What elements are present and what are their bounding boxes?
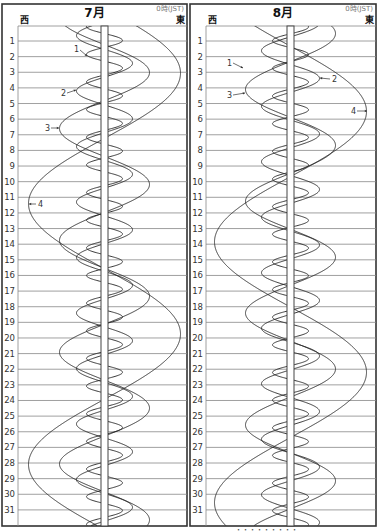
day-label: 15 <box>4 255 15 265</box>
day-label: 15 <box>192 255 203 265</box>
day-label: 25 <box>4 411 15 421</box>
day-label: 19 <box>192 317 203 327</box>
day-label: 22 <box>192 364 203 374</box>
jupiter-band <box>287 26 294 526</box>
day-label: 26 <box>4 427 15 437</box>
month-title: 7月 <box>84 6 104 20</box>
timezone-label: 0時(JST) <box>345 5 373 13</box>
july-panel: 7月0時(JST)西東12345678910111213141516171819… <box>2 4 187 526</box>
moon-3-label: 3 <box>45 124 50 133</box>
moon-4-label: 4 <box>38 200 43 209</box>
day-label: 23 <box>192 380 203 390</box>
day-label: 30 <box>192 489 203 499</box>
day-label: 5 <box>10 99 15 109</box>
day-label: 4 <box>10 83 15 93</box>
east-label: 東 <box>176 14 185 25</box>
arrowhead-icon <box>320 77 322 79</box>
day-label: 2 <box>10 52 15 62</box>
arrowhead-icon <box>29 203 31 205</box>
day-label: 6 <box>198 114 203 124</box>
cropped-caption: ・・・・・・・・・ <box>235 524 298 532</box>
day-label: 30 <box>4 489 15 499</box>
day-label: 18 <box>192 302 203 312</box>
day-label: 6 <box>10 114 15 124</box>
day-label: 10 <box>4 177 15 187</box>
day-label: 1 <box>198 36 203 46</box>
day-label: 31 <box>192 505 203 515</box>
day-label: 28 <box>4 458 15 468</box>
day-label: 14 <box>4 239 15 249</box>
day-label: 27 <box>4 442 15 452</box>
day-label: 2 <box>198 52 203 62</box>
day-label: 1 <box>10 36 15 46</box>
august-panel: 8月0時(JST)西東12345678910111213141516171819… <box>190 4 376 526</box>
day-label: 22 <box>4 364 15 374</box>
day-label: 20 <box>192 333 203 343</box>
day-label: 13 <box>4 224 15 234</box>
day-label: 16 <box>4 270 15 280</box>
west-label: 西 <box>20 15 29 25</box>
day-label: 16 <box>192 270 203 280</box>
day-label: 8 <box>198 145 203 155</box>
moon-1-label: 1 <box>74 45 79 54</box>
day-label: 29 <box>4 474 15 484</box>
day-label: 18 <box>4 302 15 312</box>
day-label: 10 <box>192 177 203 187</box>
day-label: 19 <box>4 317 15 327</box>
day-label: 26 <box>192 427 203 437</box>
east-label: 東 <box>365 14 374 25</box>
day-label: 17 <box>4 286 15 296</box>
day-label: 3 <box>10 67 15 77</box>
day-label: 4 <box>198 83 203 93</box>
day-label: 11 <box>4 192 15 202</box>
day-label: 17 <box>192 286 203 296</box>
day-label: 7 <box>198 130 203 140</box>
day-label: 12 <box>192 208 203 218</box>
day-label: 21 <box>192 349 203 359</box>
west-label: 西 <box>208 15 217 25</box>
jupiter-band <box>101 26 108 526</box>
moon-4-label: 4 <box>351 107 356 116</box>
day-label: 12 <box>4 208 15 218</box>
month-title: 8月 <box>273 6 293 20</box>
day-label: 14 <box>192 239 203 249</box>
day-label: 13 <box>192 224 203 234</box>
day-label: 23 <box>4 380 15 390</box>
day-label: 3 <box>198 67 203 77</box>
day-label: 7 <box>10 130 15 140</box>
day-label: 20 <box>4 333 15 343</box>
timezone-label: 0時(JST) <box>156 5 184 13</box>
day-label: 21 <box>4 349 15 359</box>
day-label: 28 <box>192 458 203 468</box>
moon-1-label: 1 <box>227 59 232 68</box>
day-label: 29 <box>192 474 203 484</box>
day-label: 27 <box>192 442 203 452</box>
day-label: 9 <box>198 161 203 171</box>
day-label: 24 <box>4 395 15 405</box>
day-label: 31 <box>4 505 15 515</box>
day-label: 8 <box>10 145 15 155</box>
day-label: 24 <box>192 395 203 405</box>
jupiter-moons-diagram: 7月0時(JST)西東12345678910111213141516171819… <box>0 0 380 532</box>
day-label: 11 <box>192 192 203 202</box>
arrowhead-icon <box>57 127 59 129</box>
day-label: 25 <box>192 411 203 421</box>
moon-2-label: 2 <box>61 89 66 98</box>
moon-2-label: 2 <box>332 75 337 84</box>
moon-3-label: 3 <box>227 91 232 100</box>
day-label: 9 <box>10 161 15 171</box>
day-label: 5 <box>198 99 203 109</box>
